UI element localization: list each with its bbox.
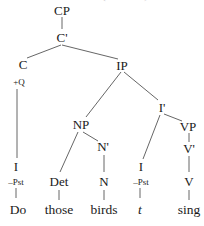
node-cp: CP [54,3,70,18]
node-n-bar: N' [97,139,109,154]
node-v-bar: V' [183,141,195,156]
node-np: NP [73,117,90,132]
word-birds: birds [91,202,118,217]
node-c-bar: C' [56,30,67,45]
syntax-tree-diagram: (structure) CP C' C +Q IP I' I –Pst NP N… [0,0,204,226]
feature-minus-pst-moved: –Pst [7,177,24,187]
word-trace-t: t [138,202,143,217]
word-those: those [45,202,74,217]
word-do: Do [10,202,27,217]
node-i-trace: I [139,159,143,174]
node-vp: VP [180,119,197,134]
node-i-bar: I' [159,100,166,115]
node-c: C [19,57,28,72]
word-sing: sing [178,202,201,217]
node-ip: IP [116,58,128,73]
clipped-header: (structure) [102,0,148,2]
node-det: Det [50,174,69,189]
feature-minus-pst-trace: –Pst [132,177,149,187]
node-i-moved: I [14,159,18,174]
feature-plus-q: +Q [13,77,25,87]
node-n: N [99,174,109,189]
node-v: V [184,174,194,189]
